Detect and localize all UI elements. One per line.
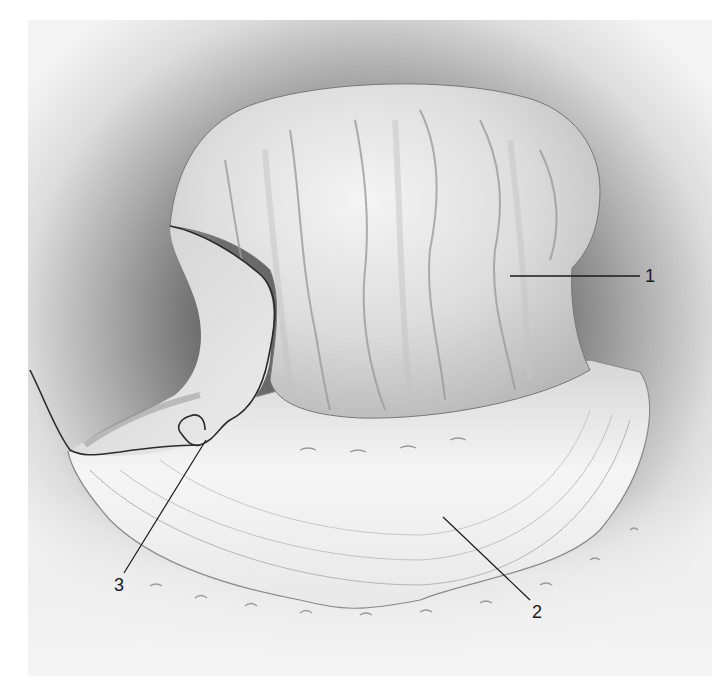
callout-label-3: 3 xyxy=(114,576,124,594)
callout-label-2: 2 xyxy=(532,603,542,621)
anatomical-illustration xyxy=(0,0,728,695)
callout-label-1: 1 xyxy=(645,267,655,285)
